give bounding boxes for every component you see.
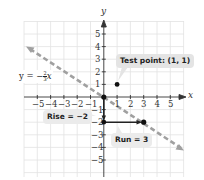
equation-variable: x [47,71,52,81]
y-axis-label: y [101,7,106,16]
x-tick-label: 3 [141,100,146,109]
y-tick-label: 1 [95,80,100,89]
x-tick-label: −4 [45,100,58,109]
rise-callout: Rise = −2 [43,110,92,124]
y-tick-label: 5 [95,30,100,39]
x-tick-label: −3 [58,100,71,109]
x-tick-label: −2 [71,100,84,109]
points [101,82,146,125]
x-tick-label: 1 [115,100,120,109]
test-point-pointer [118,67,128,81]
y-tick-label: −4 [91,143,104,152]
y-tick-label: 4 [95,43,100,52]
run-callout: Run = 3 [111,133,152,147]
equation-label: y = −23x [17,70,53,83]
equation-lhs: y = − [19,71,43,81]
y-tick-label: −5 [91,156,104,165]
y-tick-label: −3 [91,131,104,140]
origin-point [101,94,106,99]
x-tick-label: 4 [155,100,160,109]
y-tick-label: 3 [95,55,100,64]
y-tick-label: 2 [95,68,100,77]
test-point [115,82,120,87]
x-tick-label: 5 [168,100,173,109]
test-point-callout: Test point: (1, 1) [116,54,194,68]
y-tick-label: −1 [91,106,104,115]
run-arrow [104,120,142,124]
y-tick-label: −2 [91,118,104,127]
x-tick-label: −5 [32,100,45,109]
x-axis-label: x [188,91,193,100]
point-3-neg2 [141,120,146,125]
coordinate-plane [0,0,204,180]
x-tick-label: 2 [128,100,133,109]
